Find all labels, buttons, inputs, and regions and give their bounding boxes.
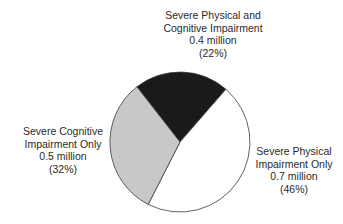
label-value: 0.5 million xyxy=(2,150,124,163)
label-line: Severe Cognitive xyxy=(2,125,124,138)
label-percent: (32%) xyxy=(2,163,124,176)
label-line: Impairment Only xyxy=(2,138,124,151)
label-percent: (22%) xyxy=(143,47,283,60)
label-percent: (46%) xyxy=(245,183,343,196)
label-line: Cognitive Impairment xyxy=(143,22,283,35)
label-value: 0.4 million xyxy=(143,34,283,47)
label-line: Impairment Only xyxy=(245,158,343,171)
label-physical-and-cognitive: Severe Physical and Cognitive Impairment… xyxy=(143,9,283,59)
pie-chart: Severe Physical and Cognitive Impairment… xyxy=(0,0,343,224)
label-physical-only: Severe Physical Impairment Only 0.7 mill… xyxy=(245,145,343,195)
label-line: Severe Physical xyxy=(245,145,343,158)
label-value: 0.7 million xyxy=(245,170,343,183)
label-line: Severe Physical and xyxy=(143,9,283,22)
label-cognitive-only: Severe Cognitive Impairment Only 0.5 mil… xyxy=(2,125,124,175)
